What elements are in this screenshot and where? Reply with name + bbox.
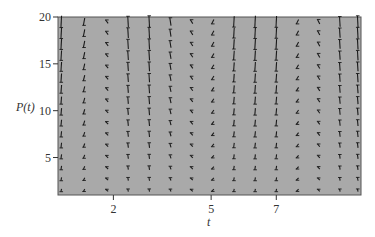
slope-segment (234, 74, 235, 82)
slope-segment (357, 131, 358, 137)
slope-segment (255, 108, 256, 115)
slope-segment (340, 51, 341, 60)
slope-segment (149, 131, 150, 137)
slope-segment (255, 27, 256, 38)
slope-segment (234, 143, 235, 148)
slope-segment (61, 27, 62, 38)
slope-segment (255, 74, 256, 83)
slope-segment (61, 39, 62, 50)
slope-segment (255, 154, 256, 159)
slope-segment (61, 154, 62, 159)
slope-segment (276, 39, 277, 49)
slope-segment (61, 74, 62, 83)
x-tick-label: 2 (110, 202, 116, 216)
slope-segment (234, 16, 235, 27)
x-axis-label: t (207, 215, 211, 229)
slope-segment (234, 85, 235, 93)
slope-segment (234, 131, 235, 136)
slope-segment (61, 16, 62, 28)
slope-segment (128, 108, 129, 114)
slope-segment (340, 97, 341, 104)
slope-segment (276, 62, 277, 71)
slope-segment (128, 51, 129, 60)
slope-segment (61, 177, 62, 180)
slope-segment (340, 74, 341, 82)
slope-segment (61, 166, 62, 170)
slope-segment (149, 27, 150, 38)
slope-segment (276, 28, 277, 39)
slope-segment (276, 108, 277, 115)
slope-segment (276, 143, 277, 148)
slope-segment (276, 97, 277, 104)
slope-segment (255, 177, 256, 180)
slope-segment (340, 86, 341, 93)
slope-segment (340, 63, 341, 71)
slope-segment (128, 120, 129, 126)
slope-segment (276, 120, 277, 126)
slope-segment (61, 85, 62, 93)
slope-segment (357, 62, 358, 71)
slope-segment (128, 62, 129, 71)
slope-segment (149, 177, 150, 180)
slope-segment (61, 62, 62, 71)
y-axis: 5101520 (39, 10, 58, 165)
slope-segment (234, 120, 235, 126)
slope-segment (149, 62, 150, 71)
slope-segment (149, 108, 150, 115)
slope-segment (234, 39, 235, 49)
slope-segment (276, 85, 277, 93)
slope-segment (128, 166, 129, 170)
slope-segment (357, 154, 358, 159)
slope-segment (340, 28, 341, 38)
slope-segment (149, 74, 150, 83)
slope-segment (340, 177, 341, 180)
slope-segment (128, 39, 129, 49)
y-tick-label: 10 (39, 104, 51, 118)
slope-segment (61, 143, 62, 148)
slope-segment (340, 143, 341, 148)
slope-segment (149, 143, 150, 148)
slope-segment (276, 166, 277, 170)
slope-segment (357, 27, 358, 38)
slope-segment (234, 108, 235, 114)
slope-segment (340, 40, 341, 49)
slope-segment (61, 131, 62, 137)
slope-segment (357, 74, 358, 83)
slope-segment (128, 74, 129, 82)
slope-segment (340, 166, 341, 170)
slope-segment (255, 85, 256, 93)
slope-segment (61, 120, 62, 126)
slope-segment (357, 143, 358, 148)
slope-segment (357, 16, 358, 28)
slope-segment (149, 97, 150, 105)
slope-segment (255, 16, 256, 28)
slope-segment (128, 97, 129, 104)
slope-segment (61, 108, 62, 115)
slope-field-chart: 5101520 257 P(t) t (0, 0, 375, 237)
slope-segment (357, 108, 358, 115)
plot-area (58, 17, 361, 195)
slope-segment (234, 154, 235, 158)
slope-segment (128, 16, 129, 27)
slope-segment (340, 109, 341, 115)
y-tick-label: 5 (45, 151, 51, 165)
slope-segment (255, 166, 256, 170)
x-axis: 257 (110, 195, 279, 216)
slope-segment (255, 62, 256, 71)
slope-segment (357, 85, 358, 93)
slope-segment (340, 155, 341, 159)
slope-segment (276, 16, 277, 27)
slope-segment (276, 131, 277, 137)
slope-segment (340, 17, 341, 27)
slope-segment (149, 39, 150, 50)
slope-segment (61, 97, 62, 105)
slope-segment (234, 166, 235, 170)
slope-segment (234, 62, 235, 71)
slope-segment (128, 154, 129, 158)
slope-segment (357, 97, 358, 105)
slope-segment (357, 120, 358, 126)
slope-segment (255, 131, 256, 137)
x-tick-label: 7 (273, 202, 279, 216)
slope-segment (255, 97, 256, 105)
slope-segment (276, 154, 277, 158)
